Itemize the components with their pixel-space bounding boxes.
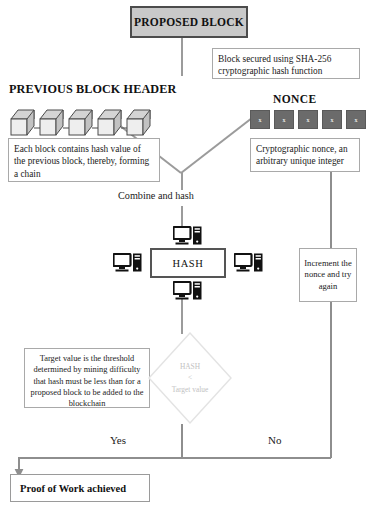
decision-line-1: HASH xyxy=(180,361,200,372)
combine-and-hash-label: Combine and hash xyxy=(118,190,194,201)
target-value-note-text: Target value is the threshold determined… xyxy=(30,354,143,408)
nonce-title: NONCE xyxy=(273,93,317,105)
nonce-cell: x xyxy=(250,110,270,129)
nonce-cell: x xyxy=(322,110,342,129)
decision-line-3: Target value xyxy=(172,384,209,395)
proposed-block-label: PROPOSED BLOCK xyxy=(134,16,244,28)
connector-merge-to-label xyxy=(181,172,183,190)
branch-label-no: No xyxy=(268,434,281,446)
decision-node-text: HASH < Target value xyxy=(148,332,232,424)
blockchain-cubes-icon xyxy=(8,106,158,138)
nonce-cells: x x x x x xyxy=(250,110,366,129)
computer-icon xyxy=(113,253,143,273)
previous-block-header-title: PREVIOUS BLOCK HEADER xyxy=(9,82,176,97)
nonce-cell: x xyxy=(298,110,318,129)
connector-hash-to-decision xyxy=(181,298,183,334)
target-value-note: Target value is the threshold determined… xyxy=(24,348,150,408)
hash-node-label: HASH xyxy=(173,258,204,269)
branch-label-yes: Yes xyxy=(110,434,126,446)
nonce-cell: x xyxy=(274,110,294,129)
nonce-note: Cryptographic nonce, an arbitrary unique… xyxy=(250,138,360,172)
computer-icon xyxy=(173,281,203,301)
nonce-note-text: Cryptographic nonce, an arbitrary unique… xyxy=(256,144,348,166)
blockchain-note: Each block contains hash value of the pr… xyxy=(8,138,160,182)
connector-label-to-hash xyxy=(181,206,183,226)
connector-branch-bar xyxy=(18,457,331,459)
decision-line-2: < xyxy=(188,372,192,383)
sha256-note: Block secured using SHA-256 cryptographi… xyxy=(212,48,360,79)
hash-node: HASH xyxy=(150,248,226,278)
decision-node: HASH < Target value xyxy=(148,332,232,424)
computer-icon xyxy=(234,253,264,273)
proposed-block-node: PROPOSED BLOCK xyxy=(130,6,248,38)
connector-proposed-to-merge xyxy=(181,38,183,76)
increment-nonce-note-text: Increment the nonce and try again xyxy=(302,258,354,292)
connector-decision-down xyxy=(181,424,183,458)
connector-no-up-to-increment xyxy=(330,302,332,458)
nonce-cell: x xyxy=(346,110,366,129)
proof-of-work-result-node: Proof of Work achieved xyxy=(10,474,150,502)
computer-icon xyxy=(173,226,203,246)
proof-of-work-result-label: Proof of Work achieved xyxy=(20,483,126,494)
sha256-note-text: Block secured using SHA-256 cryptographi… xyxy=(218,54,331,76)
blockchain-note-text: Each block contains hash value of the pr… xyxy=(14,144,149,179)
connector-increment-to-nonce xyxy=(330,172,332,248)
increment-nonce-note: Increment the nonce and try again xyxy=(299,248,357,302)
